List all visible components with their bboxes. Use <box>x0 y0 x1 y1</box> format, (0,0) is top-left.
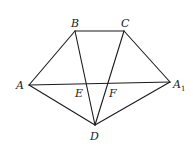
geometry-diagram: B C A A 1 E F D <box>0 0 193 155</box>
segment-AB <box>29 31 75 85</box>
label-A1: A <box>172 78 181 91</box>
label-B: B <box>70 17 79 30</box>
segment-CA1 <box>124 31 170 82</box>
segment-AA1 <box>29 82 170 85</box>
segment-BD <box>75 31 95 125</box>
label-D: D <box>89 130 99 143</box>
label-F: F <box>108 87 117 100</box>
label-E: E <box>74 87 83 100</box>
label-C: C <box>121 17 130 30</box>
label-A1-subscript: 1 <box>181 85 185 93</box>
label-A: A <box>15 79 24 92</box>
segment-AD <box>29 85 95 125</box>
